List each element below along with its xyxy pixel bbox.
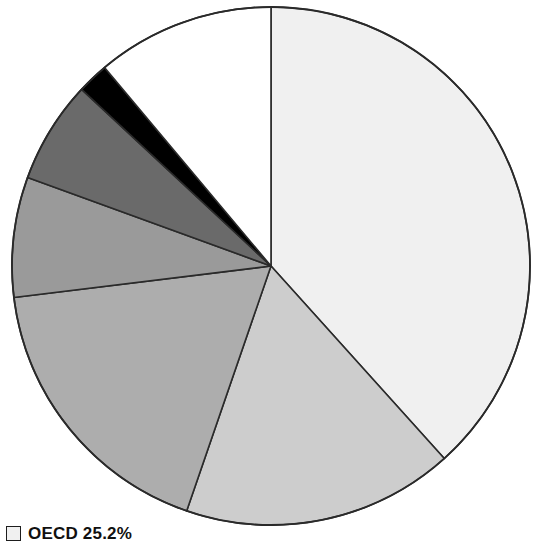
chart-legend: OECD 25.2% bbox=[6, 522, 132, 544]
pie-slice-group bbox=[12, 7, 530, 525]
legend-swatch-oecd bbox=[6, 526, 21, 541]
legend-label-oecd: OECD 25.2% bbox=[28, 524, 132, 543]
